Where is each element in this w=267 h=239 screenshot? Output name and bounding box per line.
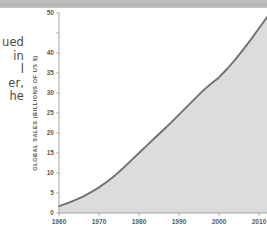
top-gray-band-shading xyxy=(0,0,267,8)
y-axis-tick-label: 5 xyxy=(50,189,54,196)
y-axis-tick-label: 50 xyxy=(47,9,55,16)
page-root: ued in l er, he 051015202530354050196019… xyxy=(0,0,267,239)
top-gray-band xyxy=(0,0,267,8)
x-axis-tick-label: 2000 xyxy=(212,218,227,225)
y-axis-tick-label: 15 xyxy=(47,149,55,156)
area-fill xyxy=(59,17,267,213)
y-axis-tick-label: 30 xyxy=(47,89,55,96)
y-axis-tick-label: 35 xyxy=(47,69,55,76)
x-axis-tick-label: 1970 xyxy=(92,218,107,225)
y-axis-tick-label: 40 xyxy=(47,49,55,56)
x-axis-tick-label: 1960 xyxy=(52,218,67,225)
x-axis-tick-label: 1980 xyxy=(132,218,147,225)
y-axis-title: GLOBAL SALES (BILLIONS OF US $) xyxy=(32,55,38,170)
area-chart: 0510152025303540501960197019801990200020… xyxy=(0,8,267,239)
y-axis-tick-label: 10 xyxy=(47,169,55,176)
x-axis-tick-label: 2010 xyxy=(252,218,267,225)
y-axis-tick-label: 0 xyxy=(50,209,54,216)
y-axis-tick-label: 20 xyxy=(47,129,55,136)
y-axis-tick-label: 25 xyxy=(47,109,55,116)
x-axis-tick-label: 1990 xyxy=(172,218,187,225)
